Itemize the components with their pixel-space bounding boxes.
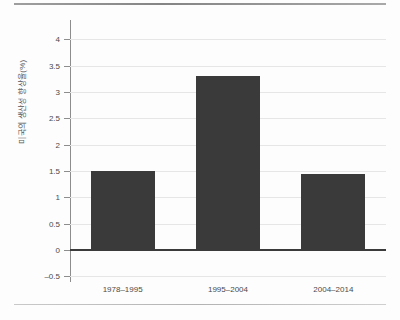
y-axis-line bbox=[70, 20, 71, 282]
bar bbox=[301, 174, 365, 250]
y-axis-tick bbox=[64, 224, 70, 225]
y-axis-tick-label: 0 bbox=[26, 246, 60, 255]
y-axis-tick-label: 1 bbox=[26, 193, 60, 202]
y-axis-tick-label: 1.5 bbox=[26, 166, 60, 175]
y-axis-tick bbox=[64, 171, 70, 172]
y-axis-tick bbox=[64, 118, 70, 119]
y-axis-tick bbox=[64, 66, 70, 67]
y-axis-tick-label: 3.5 bbox=[26, 61, 60, 70]
y-axis-tick bbox=[64, 92, 70, 93]
x-axis-tick-label: 1978–1995 bbox=[63, 285, 183, 294]
y-axis-tick-label: –0.5 bbox=[26, 272, 60, 281]
y-axis-tick bbox=[64, 197, 70, 198]
y-axis-title: 미국의 생산성 향상율(%) bbox=[16, 37, 27, 167]
x-axis-tick-label: 2004–2014 bbox=[273, 285, 393, 294]
gridline bbox=[70, 276, 386, 277]
bar bbox=[91, 171, 155, 250]
scanned-page: 미국의 생산성 향상율(%) 43.532.521.510.50–0.5 197… bbox=[0, 0, 400, 320]
y-axis-tick-label: 4 bbox=[26, 35, 60, 44]
y-axis-tick-label: 2.5 bbox=[26, 114, 60, 123]
y-axis-tick-label: 3 bbox=[26, 87, 60, 96]
y-axis-tick-label: 2 bbox=[26, 140, 60, 149]
gridline bbox=[70, 66, 386, 67]
gridline bbox=[70, 39, 386, 40]
y-axis-tick bbox=[64, 145, 70, 146]
y-axis-tick-label: 0.5 bbox=[26, 219, 60, 228]
y-axis-tick bbox=[64, 39, 70, 40]
x-axis-tick-label: 1995–2004 bbox=[168, 285, 288, 294]
y-axis-tick bbox=[64, 276, 70, 277]
bar-chart: 미국의 생산성 향상율(%) 43.532.521.510.50–0.5 197… bbox=[0, 0, 400, 320]
bar bbox=[196, 76, 260, 250]
